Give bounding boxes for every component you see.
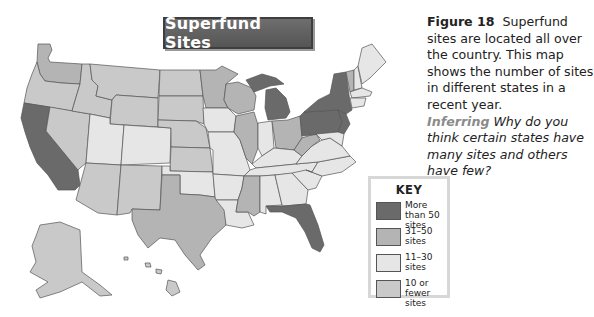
state-north-dakota [159, 70, 203, 96]
key-item-11-30: 11–30 sites [376, 252, 447, 276]
key-label: 10 or fewer sites [405, 278, 445, 308]
key-item-31-50: 31–50 sites [376, 226, 447, 250]
state-alaska [30, 222, 112, 298]
figure-caption: Figure 18 Superfund sites are located al… [427, 14, 594, 180]
state-hawaii [124, 257, 180, 296]
key-swatch [376, 280, 401, 298]
state-colorado [121, 125, 171, 165]
key-label: 11–30 sites [405, 252, 445, 272]
state-kansas [170, 147, 213, 172]
key-item-10-or-fewer: 10 or fewer sites [376, 278, 447, 302]
state-maine [358, 44, 386, 84]
map-key: KEY More than 50 sites 31–50 sites 11–30… [368, 176, 450, 298]
key-swatch [376, 228, 401, 246]
state-washington [37, 44, 82, 84]
state-new-mexico [117, 165, 162, 215]
state-new-york [304, 72, 352, 114]
figure-label: Figure 18 [427, 14, 495, 29]
key-swatch [376, 254, 401, 272]
state-arizona [76, 163, 121, 215]
map-title: Superfund Sites [163, 17, 313, 49]
key-swatch [376, 202, 401, 220]
state-connecticut-ri [350, 98, 366, 108]
state-south-dakota [158, 96, 204, 124]
key-title: KEY [371, 183, 447, 197]
key-item-more-than-50: More than 50 sites [376, 200, 447, 224]
state-iowa [203, 108, 236, 132]
state-wyoming [110, 95, 158, 127]
state-montana [90, 64, 160, 100]
key-label: 31–50 sites [405, 226, 445, 246]
state-florida [266, 204, 324, 252]
inferring-label: Inferring [427, 114, 489, 129]
state-michigan-lower [265, 88, 290, 120]
